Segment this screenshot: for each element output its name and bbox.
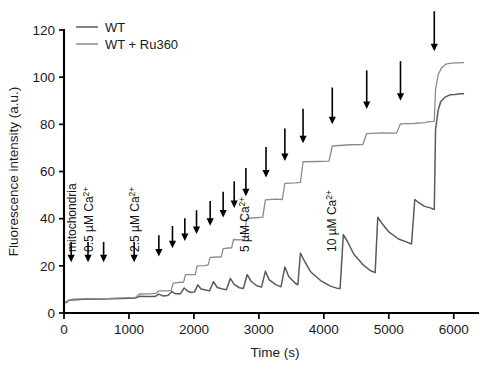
arrow-head xyxy=(262,170,269,178)
legend-entry: WT xyxy=(76,20,125,35)
injection-label: mitochondria xyxy=(65,183,79,252)
legend-entry: WT + Ru360 xyxy=(76,37,178,52)
arrow-head xyxy=(100,255,107,263)
injection-arrow xyxy=(220,192,227,218)
injection-label: 5 µM Ca2+ xyxy=(237,197,252,252)
y-tick-label: 100 xyxy=(32,70,55,85)
figure-container: 0204060801001200100020003000400050006000… xyxy=(0,0,498,383)
x-tick-label: 3000 xyxy=(244,322,274,337)
arrow-head xyxy=(155,249,162,257)
arrow-head xyxy=(207,218,214,226)
injection-label: 10 µM Ca2+ xyxy=(324,190,339,252)
arrow-head xyxy=(329,117,336,125)
injection-arrow xyxy=(329,88,336,125)
arrow-head xyxy=(131,255,138,263)
injection-arrow xyxy=(299,109,306,144)
injection-arrow xyxy=(181,218,188,241)
annotation-labels-layer: mitochondria0.5 µM Ca2+2.5 µM Ca2+5 µM C… xyxy=(65,183,339,252)
arrow-head xyxy=(181,234,188,242)
arrow-head xyxy=(169,241,176,249)
figure-caption-strip xyxy=(0,366,498,383)
arrow-head xyxy=(299,136,306,144)
x-tick-label: 1000 xyxy=(114,322,144,337)
series-line-wt-ru360 xyxy=(64,63,464,303)
injection-arrow xyxy=(431,11,438,51)
y-tick-label: 60 xyxy=(40,164,55,179)
injection-arrow xyxy=(281,128,288,160)
x-tick-label: 6000 xyxy=(439,322,469,337)
x-axis-title: Time (s) xyxy=(251,345,300,360)
injection-label: 0.5 µM Ca2+ xyxy=(81,187,96,252)
arrow-head xyxy=(363,102,370,110)
arrow-head xyxy=(84,255,91,263)
legend-label: WT xyxy=(105,20,125,35)
injection-label: 2.5 µM Ca2+ xyxy=(127,187,142,252)
arrow-head xyxy=(397,93,404,101)
x-tick-label: 0 xyxy=(60,322,68,337)
arrow-head xyxy=(242,189,249,197)
y-tick-label: 80 xyxy=(40,117,55,132)
arrow-head xyxy=(68,255,75,263)
injection-arrow xyxy=(363,70,370,109)
injection-arrow xyxy=(242,168,249,196)
y-tick-label: 20 xyxy=(40,259,55,274)
arrow-head xyxy=(281,153,288,161)
injection-arrow xyxy=(397,61,404,101)
series-line-wt xyxy=(64,94,464,303)
y-tick-label: 0 xyxy=(47,306,55,321)
y-tick-label: 40 xyxy=(40,211,55,226)
x-tick-label: 5000 xyxy=(374,322,404,337)
injection-arrow xyxy=(207,201,214,226)
y-tick-label: 120 xyxy=(32,23,55,38)
injection-arrow xyxy=(262,147,269,178)
arrow-head xyxy=(431,44,438,52)
x-tick-label: 2000 xyxy=(179,322,209,337)
y-axis-title: Fluorescence intensity (a.u.) xyxy=(6,87,21,257)
injection-arrow xyxy=(155,235,162,256)
x-tick-label: 4000 xyxy=(309,322,339,337)
injection-arrow xyxy=(100,242,107,262)
legend-label: WT + Ru360 xyxy=(105,37,178,52)
injection-arrow xyxy=(169,226,176,248)
injection-arrow xyxy=(193,210,200,234)
chart-legend: WTWT + Ru360 xyxy=(76,20,178,52)
calcium-uptake-chart: 0204060801001200100020003000400050006000… xyxy=(0,0,498,383)
series-layer xyxy=(64,63,464,303)
arrow-head xyxy=(193,226,200,234)
arrow-head xyxy=(220,210,227,218)
